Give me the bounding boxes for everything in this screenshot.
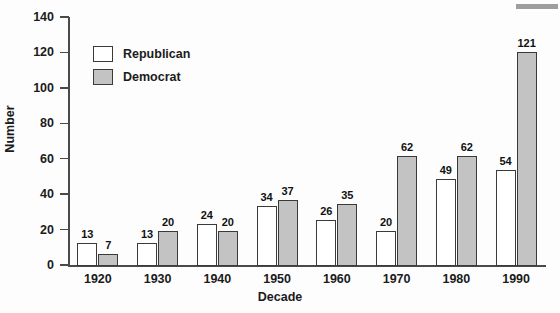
bar-republican-1970[interactable] xyxy=(376,231,396,266)
bar-democrat-1990[interactable] xyxy=(517,52,537,266)
x-tick-label-1980: 1980 xyxy=(426,272,486,286)
legend-label-democrat: Democrat xyxy=(123,70,181,84)
y-tick-label-120: 120 xyxy=(14,46,54,59)
x-tick-label-1990: 1990 xyxy=(486,272,546,286)
bar-democrat-1980[interactable] xyxy=(457,156,477,266)
y-axis-title: Number xyxy=(3,74,17,184)
bar-republican-1990[interactable] xyxy=(496,170,516,266)
x-tick-label-1940: 1940 xyxy=(187,272,247,286)
democrat-swatch-icon xyxy=(93,69,113,85)
chart-legend: Republican Democrat xyxy=(93,46,190,92)
legend-label-republican: Republican xyxy=(123,47,190,61)
x-tick-label-1930: 1930 xyxy=(128,272,188,286)
legend-item-republican[interactable]: Republican xyxy=(93,46,190,62)
bar-value-democrat-1960: 35 xyxy=(330,190,364,201)
chart-page: 020406080100120140 Number Decade 1371320… xyxy=(0,0,560,313)
bar-democrat-1960[interactable] xyxy=(337,204,357,266)
bar-value-democrat-1970: 62 xyxy=(390,142,424,153)
bar-value-democrat-1950: 37 xyxy=(271,186,305,197)
x-axis-title: Decade xyxy=(0,290,560,304)
x-tick-label-1970: 1970 xyxy=(367,272,427,286)
x-tick-label-1920: 1920 xyxy=(68,272,128,286)
bar-republican-1980[interactable] xyxy=(436,179,456,266)
bar-republican-1960[interactable] xyxy=(316,220,336,266)
bar-value-democrat-1930: 20 xyxy=(151,217,185,228)
bar-republican-1950[interactable] xyxy=(257,206,277,266)
bar-value-democrat-1980: 62 xyxy=(450,142,484,153)
y-tick-label-60: 60 xyxy=(14,153,54,166)
y-tick-label-100: 100 xyxy=(14,82,54,95)
bar-value-democrat-1940: 20 xyxy=(211,217,245,228)
legend-item-democrat[interactable]: Democrat xyxy=(93,69,190,85)
bar-democrat-1970[interactable] xyxy=(397,156,417,266)
y-tick-label-20: 20 xyxy=(14,224,54,237)
bar-republican-1940[interactable] xyxy=(197,224,217,267)
scan-artifact xyxy=(516,4,558,9)
y-tick-label-140: 140 xyxy=(14,11,54,24)
y-tick-label-40: 40 xyxy=(14,188,54,201)
bar-democrat-1940[interactable] xyxy=(218,231,238,266)
x-tick-label-1960: 1960 xyxy=(307,272,367,286)
bar-value-republican-1920: 13 xyxy=(70,229,104,240)
bar-democrat-1950[interactable] xyxy=(278,200,298,266)
republican-swatch-icon xyxy=(93,46,113,62)
bar-democrat-1920[interactable] xyxy=(98,254,118,266)
bar-republican-1930[interactable] xyxy=(137,243,157,266)
bar-democrat-1930[interactable] xyxy=(158,231,178,266)
y-tick-label-80: 80 xyxy=(14,117,54,130)
y-tick-label-0: 0 xyxy=(14,259,54,272)
bar-value-democrat-1990: 121 xyxy=(510,38,544,49)
x-tick-label-1950: 1950 xyxy=(247,272,307,286)
bar-value-democrat-1920: 7 xyxy=(91,240,125,251)
